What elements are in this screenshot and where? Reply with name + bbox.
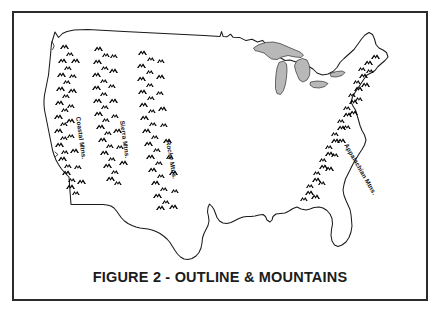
us-mainland-outline (44, 30, 388, 260)
us-outline-map: Coastal Mtns. Sierra Mtns. Rocky Mtns. A… (14, 13, 426, 299)
figure-container: Coastal Mtns. Sierra Mtns. Rocky Mtns. A… (0, 0, 442, 316)
figure-border-frame: Coastal Mtns. Sierra Mtns. Rocky Mtns. A… (12, 11, 428, 301)
map-stage: Coastal Mtns. Sierra Mtns. Rocky Mtns. A… (14, 13, 426, 299)
figure-caption: FIGURE 2 - OUTLINE & MOUNTAINS (14, 269, 426, 285)
